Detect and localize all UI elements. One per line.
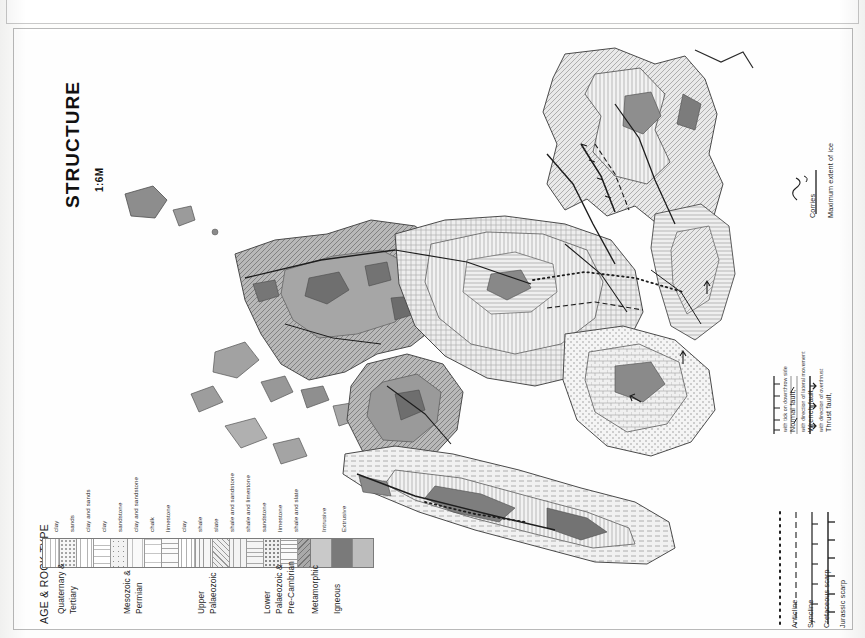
- legend-label-jurassic-scarp: Jurassic scarp: [838, 580, 847, 628]
- region-southeast: [563, 326, 715, 456]
- age-group-1-line1: Mesozoic &: [122, 570, 132, 614]
- legend-label-normal-fault: Normal fault,: [788, 389, 797, 432]
- rock-type-label-1: sands: [68, 515, 75, 532]
- swatch-igneous-pale: [353, 539, 373, 567]
- legend-detail-thrust-fault: with direction of overthrust: [818, 369, 824, 432]
- swatch-clay-and-sandstone: [128, 539, 145, 567]
- rock-type-label-11: shale and sandstone: [228, 473, 235, 532]
- legend-label-anticline: Anticline: [790, 599, 799, 628]
- rock-type-label-4: sandstone: [116, 503, 123, 532]
- age-group-3-line2: Palaeozoic &: [274, 564, 284, 614]
- rock-type-label-10: slate: [212, 518, 219, 532]
- rock-type-label-8: clay: [180, 521, 187, 532]
- age-group-3-line3: Pre-Cambrian: [286, 561, 296, 614]
- age-group-0-line2: Tertiary: [68, 586, 78, 614]
- rock-type-label-6: chalk: [148, 517, 155, 532]
- legend-label-syncline: Syncline: [806, 600, 815, 628]
- swatch-clay-and-sands: [77, 539, 94, 567]
- swatch-intrusive: [311, 539, 332, 567]
- rock-type-label-9: shale: [196, 517, 203, 532]
- geological-map: [95, 34, 755, 624]
- rock-type-label-12: shale and limestone: [244, 475, 251, 532]
- swatch-limestone: [162, 539, 179, 567]
- region-east: [651, 204, 735, 340]
- region-isles: [125, 186, 218, 235]
- rock-type-label-3: clay: [100, 521, 107, 532]
- swatch-sandstone: [111, 539, 128, 567]
- structural-symbol-legend: Anticline Syncline Cretaceous scarp Jura…: [760, 40, 860, 620]
- swatch-clay-3: [179, 539, 196, 567]
- region-southwest: [343, 446, 675, 564]
- legend-detail-normal-fault: with tick on downthrow side: [782, 366, 788, 432]
- ice-limit-line: [695, 50, 753, 68]
- legend-label-thrust-fault: Thrust fault,: [824, 392, 833, 432]
- swatch-shale-and-limestone: [247, 539, 264, 567]
- legend-label-wrench-fault: Wrench fault,: [806, 388, 815, 432]
- age-group-3-line1: Lower: [262, 591, 272, 614]
- igneous-swatch-strip: [310, 538, 374, 568]
- swatch-sandstone-2: [264, 539, 281, 567]
- rock-type-label-0: clay: [52, 521, 59, 532]
- swatch-slate: [213, 539, 230, 567]
- legend-label-corries: Corries: [808, 194, 817, 218]
- age-group-2-line2: Palaeozoic: [208, 572, 218, 614]
- legend-label-cretaceous-scarp: Cretaceous scarp: [822, 569, 831, 628]
- swatch-extrusive: [332, 539, 353, 567]
- age-group-5-line1: Igneous: [332, 584, 342, 614]
- legend-label-ice-extent: Maximum extent of ice: [826, 143, 835, 218]
- swatch-shale: [196, 539, 213, 567]
- age-group-4-line1: Metamorphic: [310, 565, 320, 614]
- rock-type-label-15: shale and slate: [292, 489, 299, 532]
- legend-detail-wrench-fault: with direction of lateral movement: [800, 351, 806, 432]
- map-artwork: [95, 34, 755, 624]
- rock-type-label-14: limestone: [276, 505, 283, 532]
- page-title: STRUCTURE: [62, 81, 84, 208]
- title-block: STRUCTURE 1:6M: [18, 40, 88, 220]
- age-group-0-line1: Quaternary &: [56, 563, 66, 614]
- rock-type-label-2: clay and sands: [84, 489, 91, 532]
- age-group-2-line1: Upper: [196, 591, 206, 614]
- age-group-1-line2: Permian: [134, 582, 144, 614]
- rock-type-label-13: sandstone: [260, 503, 267, 532]
- page-frame-top: [6, 0, 859, 24]
- map-sheet: STRUCTURE 1:6M: [0, 0, 865, 638]
- swatch-clay-2: [94, 539, 111, 567]
- igneous-label-intrusive: Intrusive: [320, 508, 327, 532]
- swatch-chalk: [145, 539, 162, 567]
- swatch-shale-and-sandstone: [230, 539, 247, 567]
- rock-type-label-5: clay and sandstone: [132, 477, 139, 532]
- rock-type-label-7: limestone: [164, 505, 171, 532]
- igneous-label-extrusive: Extrusive: [340, 506, 347, 532]
